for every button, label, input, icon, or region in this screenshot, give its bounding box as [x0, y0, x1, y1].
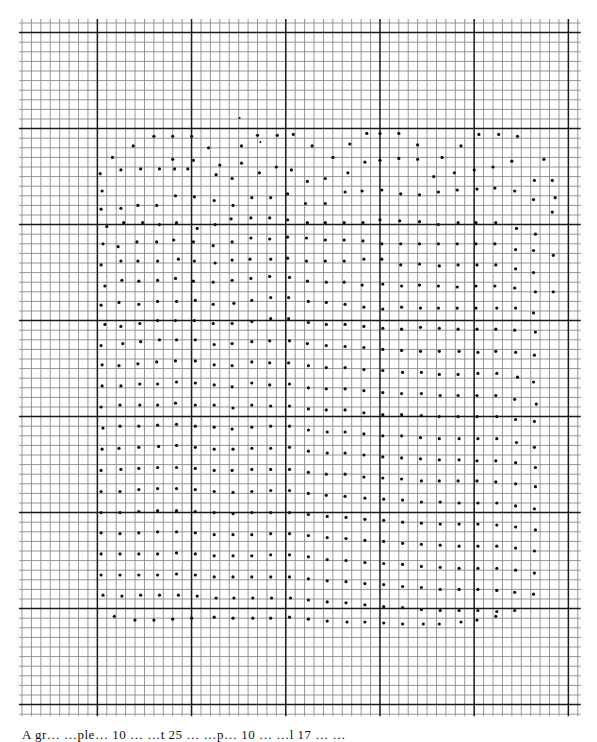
- plotted-dot: [231, 204, 234, 207]
- plotted-dot: [477, 133, 480, 136]
- plotted-dot: [231, 342, 234, 345]
- plotted-dot: [457, 221, 460, 224]
- plotted-dot: [397, 132, 400, 135]
- plotted-dot: [120, 279, 123, 282]
- plotted-dot: [363, 539, 366, 542]
- plotted-dot: [288, 575, 291, 578]
- plotted-dot: [363, 161, 366, 164]
- plotted-dot: [118, 552, 121, 555]
- plotted-dot: [456, 188, 459, 191]
- plotted-dot: [118, 511, 121, 514]
- plotted-dot: [381, 476, 384, 479]
- plotted-dot: [457, 328, 460, 331]
- plotted-dot: [532, 593, 535, 596]
- plotted-dot: [250, 340, 253, 343]
- plotted-dot: [378, 218, 381, 221]
- plotted-dot: [475, 328, 478, 331]
- plotted-dot: [250, 447, 253, 450]
- plotted-dot: [175, 380, 178, 383]
- plotted-dot: [119, 384, 122, 387]
- plotted-dot: [494, 221, 497, 224]
- plotted-dot: [119, 168, 122, 171]
- plotted-dot: [400, 456, 403, 459]
- plotted-dot: [288, 468, 291, 471]
- plotted-dot: [495, 567, 498, 570]
- plotted-dot: [137, 510, 140, 513]
- plotted-dot: [306, 342, 309, 345]
- plotted-dot: [362, 453, 365, 456]
- plotted-dot: [287, 296, 290, 299]
- plotted-dot: [213, 199, 216, 202]
- plotted-dot: [439, 609, 442, 612]
- plotted-dot: [554, 196, 557, 199]
- plotted-dot: [256, 134, 259, 137]
- plotted-dot: [250, 426, 253, 429]
- plotted-dot: [157, 445, 160, 448]
- plotted-dot: [458, 458, 461, 461]
- plotted-dot: [194, 299, 197, 302]
- plotted-dot: [361, 239, 364, 242]
- plotted-dot: [288, 382, 291, 385]
- plotted-dot: [422, 622, 425, 625]
- plotted-dot: [138, 404, 141, 407]
- plotted-dot: [416, 158, 419, 161]
- plotted-dot: [401, 563, 404, 566]
- plotted-dot: [156, 404, 159, 407]
- plotted-dot: [475, 263, 478, 266]
- plotted-dot: [100, 531, 103, 534]
- plotted-dot: [305, 260, 308, 263]
- plotted-dot: [175, 551, 178, 554]
- plotted-dot: [418, 284, 421, 287]
- plotted-dot: [133, 619, 136, 622]
- plotted-dot: [457, 373, 460, 376]
- plotted-dot: [362, 258, 365, 261]
- plotted-dot: [401, 371, 404, 374]
- plotted-dot: [418, 193, 421, 196]
- plotted-dot: [213, 404, 216, 407]
- plotted-dot: [363, 561, 366, 564]
- plotted-dot: [119, 468, 122, 471]
- plotted-dot: [137, 446, 140, 449]
- plotted-dot: [420, 586, 423, 589]
- plotted-dot: [100, 573, 103, 576]
- plotted-dot: [268, 361, 271, 364]
- plotted-dot: [418, 220, 421, 223]
- plotted-dot: [268, 383, 271, 386]
- plotted-dot: [174, 359, 177, 362]
- plotted-dot: [344, 473, 347, 476]
- plotted-dot: [494, 394, 497, 397]
- plotted-dot: [514, 307, 517, 310]
- plotted-dot: [458, 523, 461, 526]
- plotted-dot: [361, 221, 364, 224]
- plotted-dot: [232, 302, 235, 305]
- plotted-dot: [251, 617, 254, 620]
- plotted-dot: [100, 304, 103, 307]
- plotted-dot: [382, 519, 385, 522]
- plotted-dot: [438, 415, 441, 418]
- plotted-dot: [475, 459, 478, 462]
- plotted-dot: [213, 383, 216, 386]
- plotted-dot: [382, 621, 385, 624]
- plotted-dot: [420, 392, 423, 395]
- plotted-dot: [138, 382, 141, 385]
- plotted-dot: [474, 242, 477, 245]
- plotted-dot: [532, 198, 535, 201]
- plotted-dot: [100, 344, 103, 347]
- plotted-dot: [232, 596, 235, 599]
- plotted-dot: [212, 322, 215, 325]
- plotted-dot: [381, 391, 384, 394]
- plotted-dot: [258, 171, 261, 174]
- plotted-dot: [514, 418, 517, 421]
- plotted-dot: [439, 544, 442, 547]
- plotted-dot: [344, 601, 347, 604]
- plotted-dot: [175, 530, 178, 533]
- plotted-dot: [533, 507, 536, 510]
- plotted-dot: [381, 283, 384, 286]
- plotted-dot: [419, 436, 422, 439]
- plotted-dot: [118, 404, 121, 407]
- plotted-dot: [476, 523, 479, 526]
- plotted-dot: [250, 468, 253, 471]
- plotted-dot: [514, 461, 517, 464]
- plotted-dot: [250, 381, 253, 384]
- plotted-dot: [103, 323, 106, 326]
